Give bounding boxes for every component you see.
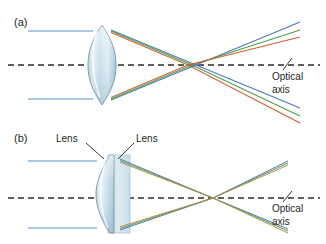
panel-a-label: (a) xyxy=(14,16,27,28)
doublet-front-element-b xyxy=(96,155,114,233)
lens-label-left-leader-b xyxy=(86,143,104,159)
lens-label-left-group-b: Lens xyxy=(56,133,104,159)
optical-axis-leader-a xyxy=(283,58,292,70)
ray-blue-upper-a xyxy=(111,30,300,108)
optical-axis-label-a-line1: Optical xyxy=(272,71,303,82)
optical-axis-leader-b xyxy=(283,191,292,202)
optics-figure: (a) Optical axis (b) xyxy=(0,0,326,244)
panel-b: (b) Lens Lens xyxy=(8,132,320,233)
optical-axis-label-a-line2: axis xyxy=(272,84,290,95)
panel-a: (a) Optical axis xyxy=(8,16,320,123)
lens-label-right-b: Lens xyxy=(136,133,158,144)
panel-b-label: (b) xyxy=(14,132,27,144)
optical-axis-label-b-line2: axis xyxy=(272,216,290,227)
refracted-rays-b xyxy=(120,159,288,233)
lens-label-left-b: Lens xyxy=(56,133,78,144)
optical-axis-label-b-line1: Optical xyxy=(272,203,303,214)
biconvex-lens-a xyxy=(88,25,116,105)
